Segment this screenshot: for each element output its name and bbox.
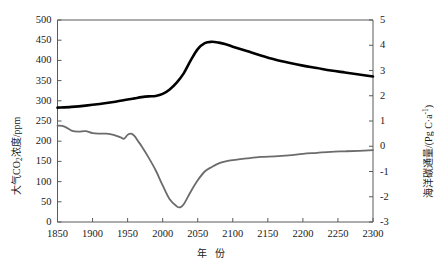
y-right-tick-label: 2 xyxy=(380,91,385,102)
x-tick-label: 2050 xyxy=(187,229,208,240)
y-right-title-prefix: 海洋碳通量/(Pg C·a xyxy=(423,114,434,198)
y-left-tick-label: 500 xyxy=(18,15,52,26)
y-left-tick-label: 0 xyxy=(18,217,52,228)
x-tick-label: 2000 xyxy=(152,229,173,240)
y-right-tick-label: 1 xyxy=(380,116,385,127)
y-right-tick-label: -2 xyxy=(380,192,389,203)
axis-lines xyxy=(58,20,374,222)
x-tick-label: 1900 xyxy=(82,229,103,240)
x-tick-label: 2150 xyxy=(257,229,278,240)
y-right-title-superscript: -1 xyxy=(421,108,430,114)
series-line-ocean-carbon-flux xyxy=(58,126,374,208)
y-left-tick-label: 300 xyxy=(18,96,52,107)
x-axis-title: 年 份 xyxy=(0,249,425,259)
y-right-tick-label: -3 xyxy=(380,217,389,228)
y-left-title-prefix: 大气CO xyxy=(11,161,22,195)
y-axis-right-title: 海洋碳通量/(Pg C·a-1) xyxy=(422,105,434,198)
x-tick-label: 2300 xyxy=(363,229,384,240)
x-tick-label: 1950 xyxy=(117,229,138,240)
y-axis-left-title: 大气CO2浓度/ppm xyxy=(12,117,24,195)
y-left-tick-label: 350 xyxy=(18,75,52,86)
series-paths xyxy=(58,42,374,208)
tick-marks xyxy=(58,20,374,222)
x-tick-label: 2200 xyxy=(292,229,313,240)
x-tick-label: 2100 xyxy=(222,229,243,240)
y-left-title-suffix: 浓度/ppm xyxy=(11,117,22,158)
y-left-tick-label: 450 xyxy=(18,35,52,46)
y-right-title-suffix: ) xyxy=(423,105,434,108)
x-tick-label: 1850 xyxy=(47,229,68,240)
y-left-tick-label: 400 xyxy=(18,55,52,66)
series-line-co2 xyxy=(58,42,374,108)
y-right-tick-label: 0 xyxy=(380,141,385,152)
y-left-tick-label: 50 xyxy=(18,197,52,208)
y-left-title-subscript: 2 xyxy=(15,157,24,161)
y-right-tick-label: -1 xyxy=(380,166,389,177)
x-tick-label: 2250 xyxy=(327,229,348,240)
y-right-tick-label: 5 xyxy=(380,15,385,26)
y-right-tick-label: 3 xyxy=(380,65,385,76)
y-right-tick-label: 4 xyxy=(380,40,385,51)
